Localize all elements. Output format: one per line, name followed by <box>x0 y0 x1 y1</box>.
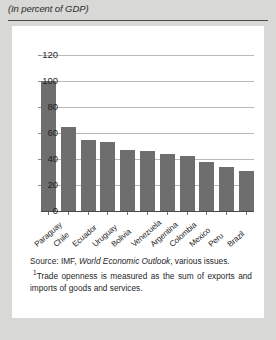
source-publication: World Economic Outlook <box>79 256 170 266</box>
footnote-text: Trade openness is measured as the sum of… <box>30 271 252 293</box>
x-axis-labels: ParaguayChileEcuadorUruguayBoliviaVenezu… <box>41 216 254 260</box>
y-tick-label: 20 <box>36 179 58 190</box>
bar <box>81 140 96 212</box>
figure-panel: ParaguayChileEcuadorUruguayBoliviaVenezu… <box>12 26 264 318</box>
y-tick-label: 40 <box>36 153 58 164</box>
figure-divider <box>8 20 268 21</box>
bar <box>239 171 254 211</box>
bar <box>180 156 195 211</box>
y-tick-label: 100 <box>36 75 58 86</box>
y-tick-label: 0 <box>36 205 58 216</box>
bar <box>219 167 234 211</box>
source-prefix: Source: IMF, <box>30 256 79 266</box>
bar <box>61 127 76 212</box>
bar-series <box>41 55 254 211</box>
source-note: Source: IMF, World Economic Outlook, var… <box>30 255 252 267</box>
bar <box>160 154 175 211</box>
bar <box>120 150 135 211</box>
footnote: 1Trade openness is measured as the sum o… <box>30 268 252 294</box>
x-tick-label: Brazil <box>226 229 247 249</box>
figure-subtitle: (In percent of GDP) <box>8 3 88 14</box>
y-tick-label: 80 <box>36 101 58 112</box>
y-tick-label: 120 <box>36 49 58 60</box>
figure-notes: Source: IMF, World Economic Outlook, var… <box>30 255 252 295</box>
bar <box>140 151 155 211</box>
bar-chart: ParaguayChileEcuadorUruguayBoliviaVenezu… <box>12 26 264 226</box>
bar <box>199 162 214 211</box>
source-suffix: , various issues. <box>170 256 229 266</box>
y-tick-label: 60 <box>36 127 58 138</box>
bar <box>100 142 115 211</box>
figure-container: (In percent of GDP) ParaguayChileEcuador… <box>0 0 276 340</box>
